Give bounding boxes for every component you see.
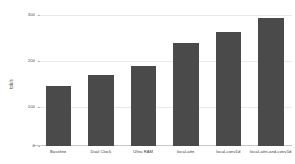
bar-series [37,12,292,146]
bar-chart-figure: 300 200 100 0 tok/s BaselineDual ClockUl… [0,0,295,164]
bar[interactable] [173,43,199,146]
bar-slot [131,12,157,146]
bar-slot [46,12,72,146]
x-axis-label: local-attn-and-conv1d [226,149,295,155]
bar[interactable] [131,66,157,146]
bar-slot [173,12,199,146]
x-axis-labels: BaselineDual ClockUltra RAMlocal-attnloc… [37,149,292,161]
bar[interactable] [46,86,72,146]
bar[interactable] [258,18,284,146]
bar[interactable] [216,32,242,146]
bar-slot [258,12,284,146]
y-tick-label-300: 300 [9,12,35,17]
bar-slot [216,12,242,146]
y-tick-label-200: 200 [9,58,35,63]
y-tick-label-0: 0 [9,143,35,148]
bar[interactable] [88,75,114,146]
tick-mark-0 [38,146,40,147]
bar-slot [88,12,114,146]
y-axis-label: tok/s [6,78,18,90]
y-tick-label-100: 100 [9,104,35,109]
